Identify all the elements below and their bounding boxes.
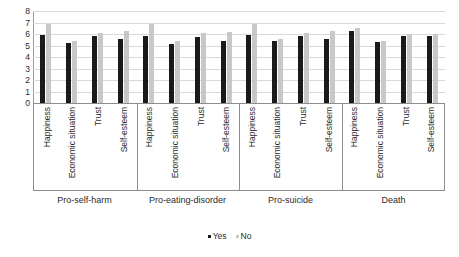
bar-yes [118, 39, 123, 103]
bar-pair [213, 11, 239, 103]
bar-yes [66, 43, 71, 103]
bar-no [355, 28, 360, 103]
bar-yes [272, 41, 277, 103]
bar-pair [162, 11, 188, 103]
bar-yes [375, 42, 380, 103]
bar-no [433, 34, 438, 103]
bar-yes [298, 36, 303, 103]
category-label-cell: Happiness [34, 104, 60, 190]
category-label-cell: Trust [188, 104, 214, 190]
category-label: Self-esteem [222, 107, 231, 152]
bar-yes [221, 41, 226, 103]
category-label-cell: Trust [393, 104, 419, 190]
bar-no [124, 31, 129, 103]
category-label-band: HappinessEconomic situationTrustSelf-est… [33, 103, 445, 191]
legend-label: Yes [213, 232, 227, 241]
bar-pair [316, 11, 342, 103]
bar-no [98, 33, 103, 103]
y-axis-tick-label: 3 [25, 64, 30, 73]
bar-yes [195, 37, 200, 103]
category-label: Economic situation [273, 107, 282, 178]
category-label-cell: Self-esteem [316, 104, 342, 190]
bar-no [227, 32, 232, 103]
bar-pair [188, 11, 214, 103]
category-label-cell: Happiness [137, 104, 163, 190]
bar-yes [169, 44, 174, 103]
bar-no [278, 39, 283, 103]
bar-pair [85, 11, 111, 103]
bar-no [330, 31, 335, 103]
bar-yes [349, 31, 354, 103]
bar-no [381, 41, 386, 103]
bar-yes [143, 36, 148, 103]
y-axis-tick-label: 8 [25, 7, 30, 16]
category-label-group: HappinessEconomic situationTrustSelf-est… [342, 104, 445, 190]
bar-pair [110, 11, 136, 103]
bar-groups [33, 11, 445, 103]
y-axis-tick-label: 1 [25, 87, 30, 96]
bar-no [72, 41, 77, 103]
category-label-groups: HappinessEconomic situationTrustSelf-est… [34, 104, 444, 190]
legend-item-no[interactable]: No [236, 232, 252, 241]
category-label-cell: Self-esteem [111, 104, 137, 190]
bar-yes [40, 35, 45, 103]
category-label-cell: Economic situation [60, 104, 86, 190]
y-axis-tick-label: 4 [25, 53, 30, 62]
bar-yes [324, 39, 329, 103]
group-name-label: Pro-suicide [239, 196, 342, 216]
bar-yes [246, 35, 251, 103]
bar-pair [342, 11, 368, 103]
bar-pair [136, 11, 162, 103]
category-label-group: HappinessEconomic situationTrustSelf-est… [239, 104, 342, 190]
category-label: Economic situation [376, 107, 385, 178]
bar-group [136, 11, 239, 103]
bar-pair [59, 11, 85, 103]
category-label-cell: Economic situation [162, 104, 188, 190]
group-name-label: Pro-eating-disorder [136, 196, 239, 216]
y-axis-tick-label: 6 [25, 30, 30, 39]
plot-area: 876543210 [33, 11, 445, 103]
bar-pair [265, 11, 291, 103]
bar-pair [291, 11, 317, 103]
legend-label: No [241, 232, 252, 241]
category-label-cell: Trust [290, 104, 316, 190]
bar-pair [239, 11, 265, 103]
category-label: Trust [94, 107, 103, 126]
bar-group [33, 11, 136, 103]
group-name-label: Death [342, 196, 445, 216]
legend-swatch-icon [236, 235, 239, 238]
category-label-group: HappinessEconomic situationTrustSelf-est… [137, 104, 240, 190]
bar-yes [401, 36, 406, 103]
chart-legend: YesNo [0, 232, 459, 241]
category-label-cell: Economic situation [265, 104, 291, 190]
bar-group [342, 11, 445, 103]
category-label: Happiness [145, 107, 154, 147]
y-axis-tick-label: 0 [25, 99, 30, 108]
y-axis-tick-label: 7 [25, 18, 30, 27]
category-label-cell: Happiness [239, 104, 265, 190]
category-label: Trust [299, 107, 308, 126]
bar-pair [394, 11, 420, 103]
bar-pair [419, 11, 445, 103]
bar-no [201, 33, 206, 103]
category-label-cell: Self-esteem [213, 104, 239, 190]
bar-no [46, 24, 51, 103]
category-label-cell: Economic situation [367, 104, 393, 190]
bar-chart: 876543210 HappinessEconomic situationTru… [0, 0, 459, 257]
bar-no [252, 24, 257, 103]
group-name-row: Pro-self-harmPro-eating-disorderPro-suic… [33, 196, 445, 216]
category-label-group: HappinessEconomic situationTrustSelf-est… [34, 104, 137, 190]
category-label: Economic situation [68, 107, 77, 178]
bar-no [407, 34, 412, 103]
bar-pair [33, 11, 59, 103]
category-label-cell: Happiness [342, 104, 368, 190]
bar-no [304, 33, 309, 103]
bar-yes [427, 36, 432, 103]
y-axis-tick-label: 5 [25, 41, 30, 50]
category-label-cell: Self-esteem [418, 104, 444, 190]
group-name-label: Pro-self-harm [33, 196, 136, 216]
bar-yes [92, 36, 97, 103]
category-label-cell: Trust [85, 104, 111, 190]
legend-item-yes[interactable]: Yes [208, 232, 227, 241]
y-axis-tick-label: 2 [25, 76, 30, 85]
